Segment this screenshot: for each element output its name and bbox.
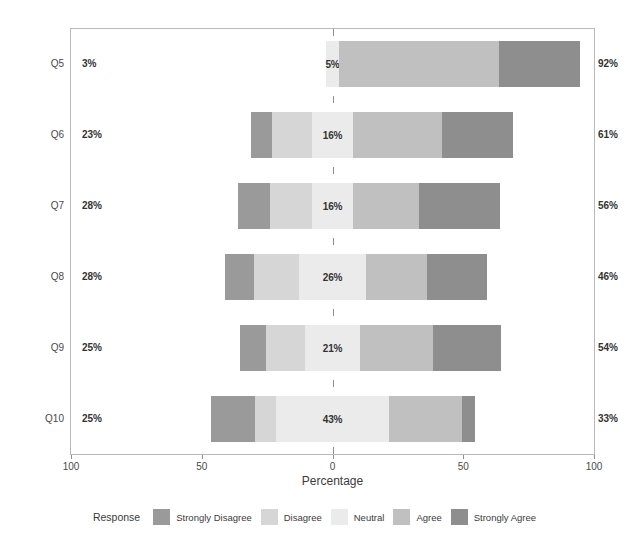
- left-total-percentages: 3%23%28%28%25%25%: [70, 28, 130, 455]
- legend-title: Response: [93, 511, 140, 523]
- legend-label: Agree: [416, 512, 441, 523]
- bar-segment-strongly-agree: [419, 183, 500, 229]
- bar-segment-agree: [360, 325, 433, 371]
- legend-label: Neutral: [354, 512, 385, 523]
- bar-row-q6: 16%: [71, 100, 594, 171]
- bar-segment-strongly-disagree: [225, 254, 254, 300]
- legend-swatch-icon: [153, 509, 170, 525]
- bar-segment-strongly-agree: [462, 396, 475, 442]
- bar-row-q7: 16%: [71, 171, 594, 242]
- bar-segment-strongly-agree: [442, 112, 513, 158]
- y-axis-category-labels: Q5Q6Q7Q8Q9Q10: [20, 28, 64, 455]
- neutral-percentage-label: 16%: [323, 201, 342, 212]
- left-total-q5: 3%: [82, 58, 96, 69]
- legend-item-strongly-disagree[interactable]: Strongly Disagree: [153, 509, 252, 525]
- bar-segment-strongly-disagree: [238, 183, 269, 229]
- bar-segment-strongly-disagree: [251, 112, 272, 158]
- y-axis-label-q6: Q6: [51, 129, 64, 140]
- legend-swatch-icon: [261, 509, 278, 525]
- x-axis-tick-label: 0: [330, 461, 336, 472]
- legend-swatch-icon: [331, 509, 348, 525]
- left-total-q6: 23%: [82, 129, 102, 140]
- x-axis-tick-label: 100: [586, 461, 603, 472]
- x-axis-tick-mark: [463, 455, 464, 459]
- x-axis-tick-mark: [333, 455, 334, 459]
- bar-row-q10: 43%: [71, 383, 594, 454]
- x-axis-tick-mark: [71, 455, 72, 459]
- bar-segment-strongly-agree: [427, 254, 487, 300]
- y-axis-label-q5: Q5: [51, 58, 64, 69]
- zero-reference-tick: [333, 380, 334, 387]
- neutral-percentage-label: 43%: [323, 413, 342, 424]
- x-axis-tick-mark: [594, 455, 595, 459]
- legend: Response Strongly DisagreeDisagreeNeutra…: [0, 502, 629, 532]
- bar-segment-strongly-agree: [499, 41, 580, 87]
- legend-item-disagree[interactable]: Disagree: [261, 509, 322, 525]
- legend-item-agree[interactable]: Agree: [393, 509, 441, 525]
- zero-reference-tick: [333, 96, 334, 103]
- y-axis-label-q8: Q8: [51, 270, 64, 281]
- x-axis-tick-label: 50: [458, 461, 469, 472]
- y-axis-label-q10: Q10: [45, 412, 64, 423]
- x-axis-tick-mark: [202, 455, 203, 459]
- likert-diverging-bar-chart: Q5Q6Q7Q8Q9Q10 5%16%16%26%21%43% 3%23%28%…: [0, 0, 629, 559]
- left-total-q10: 25%: [82, 412, 102, 423]
- x-axis-tick-label: 100: [63, 461, 80, 472]
- right-total-q5: 92%: [598, 58, 618, 69]
- right-total-percentages: 92%61%56%46%54%33%: [598, 28, 629, 455]
- neutral-percentage-label: 26%: [323, 271, 342, 282]
- bar-segment-disagree: [270, 183, 312, 229]
- plot-area: 5%16%16%26%21%43%: [70, 28, 595, 455]
- legend-label: Disagree: [284, 512, 322, 523]
- legend-swatch-icon: [451, 509, 468, 525]
- bar-row-q9: 21%: [71, 312, 594, 383]
- left-total-q9: 25%: [82, 341, 102, 352]
- left-total-q8: 28%: [82, 270, 102, 281]
- zero-reference-tick: [333, 309, 334, 316]
- zero-reference-tick: [333, 238, 334, 245]
- bar-segment-disagree: [272, 112, 311, 158]
- bar-segment-strongly-agree: [433, 325, 501, 371]
- zero-reference-tick: [333, 29, 334, 36]
- right-total-q8: 46%: [598, 270, 618, 281]
- bar-segment-agree: [389, 396, 462, 442]
- legend-item-neutral[interactable]: Neutral: [331, 509, 385, 525]
- bar-segment-disagree: [254, 254, 298, 300]
- neutral-percentage-label: 21%: [323, 342, 342, 353]
- y-axis-label-q7: Q7: [51, 200, 64, 211]
- bar-segment-disagree: [255, 396, 276, 442]
- bar-segment-agree: [353, 183, 418, 229]
- left-total-q7: 28%: [82, 200, 102, 211]
- bar-row-q8: 26%: [71, 242, 594, 313]
- bar-segment-agree: [339, 41, 499, 87]
- x-axis-title: Percentage: [70, 474, 595, 488]
- y-axis-label-q9: Q9: [51, 341, 64, 352]
- neutral-percentage-label: 5%: [325, 59, 339, 70]
- legend-swatch-icon: [393, 509, 410, 525]
- legend-item-strongly-agree[interactable]: Strongly Agree: [451, 509, 536, 525]
- bar-segment-agree: [353, 112, 442, 158]
- bar-segment-strongly-disagree: [240, 325, 266, 371]
- neutral-percentage-label: 16%: [323, 130, 342, 141]
- legend-label: Strongly Agree: [474, 512, 536, 523]
- bar-row-q5: 5%: [71, 29, 594, 100]
- bar-segment-strongly-disagree: [211, 396, 255, 442]
- right-total-q10: 33%: [598, 412, 618, 423]
- bar-segment-agree: [366, 254, 426, 300]
- right-total-q9: 54%: [598, 341, 618, 352]
- right-total-q7: 56%: [598, 200, 618, 211]
- x-axis-tick-label: 50: [196, 461, 207, 472]
- bar-segment-disagree: [266, 325, 305, 371]
- zero-reference-tick: [333, 167, 334, 174]
- right-total-q6: 61%: [598, 129, 618, 140]
- legend-label: Strongly Disagree: [176, 512, 252, 523]
- zero-reference-tick: [333, 447, 334, 454]
